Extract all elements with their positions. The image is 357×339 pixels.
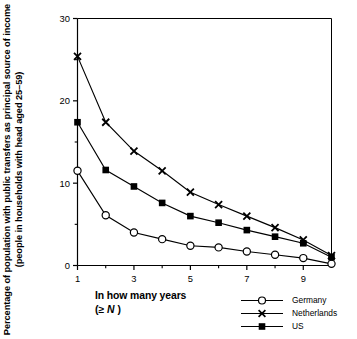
data-point-us [215,219,222,226]
legend-key-us [240,320,284,333]
data-point-us [74,119,81,126]
series-line-netherlands [78,56,332,255]
data-point-us [328,254,335,261]
data-point-us [159,200,166,207]
y-tick-label: 30 [60,13,70,24]
data-point-us [131,183,138,190]
legend-label-germany: Germany [284,294,326,307]
series-line-us [78,122,332,257]
x-tick-label: 1 [75,273,80,284]
data-point-germany [271,251,278,258]
x-axis-title-variable: N [107,304,115,315]
data-point-germany [74,167,81,174]
chart-figure: Percentage of population with public tra… [0,0,357,339]
data-point-germany [300,254,307,261]
data-point-us [244,227,251,234]
series-line-germany [78,171,332,264]
data-point-netherlands [102,119,109,126]
x-axis-title: In how many years (≥ N ) [95,289,230,317]
data-point-netherlands [130,148,137,155]
data-point-germany [328,260,335,267]
x-tick-label: 7 [244,273,249,284]
x-axis-title-line2: (≥ N ) [95,303,230,317]
data-point-germany [243,248,250,255]
data-point-germany [187,242,194,249]
x-axis-title-suffix: ) [115,304,121,315]
data-point-germany [215,244,222,251]
data-point-us [300,240,307,247]
y-tick-label: 10 [60,178,70,189]
legend-label-netherlands: Netherlands [284,307,337,320]
data-point-netherlands [159,167,166,174]
x-tick-label: 5 [188,273,193,284]
legend-key-netherlands [240,307,284,320]
data-point-us [102,167,109,174]
legend-item-us[interactable]: US [240,320,357,333]
data-point-us [187,213,194,220]
legend-label-us: US [284,320,304,333]
data-point-us [272,233,279,240]
data-point-germany [130,229,137,236]
data-point-netherlands [243,213,250,220]
legend-key-germany [240,294,284,307]
legend: Germany Netherlands US [240,294,357,333]
data-point-netherlands [215,201,222,208]
data-point-netherlands [187,189,194,196]
data-point-netherlands [272,224,279,231]
legend-item-germany[interactable]: Germany [240,294,357,307]
y-tick-label: 20 [60,95,70,106]
legend-item-netherlands[interactable]: Netherlands [240,307,357,320]
x-axis-title-line1: In how many years [95,289,230,303]
data-point-germany [159,236,166,243]
x-tick-label: 9 [301,273,306,284]
x-axis-title-prefix: (≥ [95,304,107,315]
y-tick-label: 0 [65,260,70,271]
x-tick-label: 3 [131,273,136,284]
data-point-germany [102,212,109,219]
